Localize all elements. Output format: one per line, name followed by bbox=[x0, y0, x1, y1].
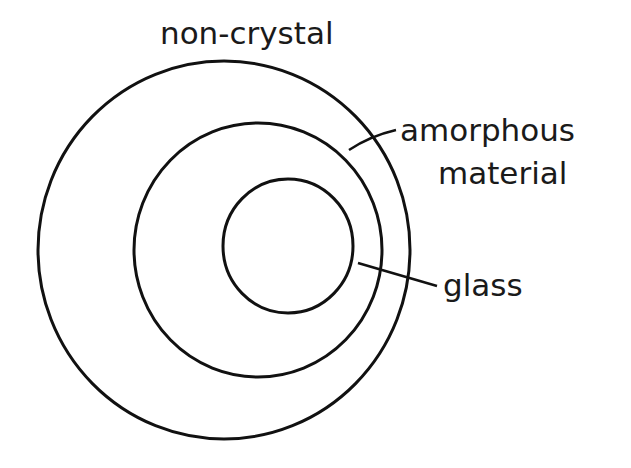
leader-line-amorphous bbox=[349, 130, 396, 150]
label-non-crystal: non-crystal bbox=[160, 15, 334, 51]
label-amorphous: amorphous bbox=[400, 112, 575, 148]
inner-circle-glass bbox=[223, 179, 353, 313]
label-glass: glass bbox=[443, 267, 523, 303]
middle-circle-amorphous-material bbox=[134, 123, 382, 377]
label-material: material bbox=[438, 155, 567, 191]
leader-line-glass bbox=[358, 263, 437, 286]
nested-sets-diagram: non-crystal amorphous material glass bbox=[0, 0, 631, 468]
